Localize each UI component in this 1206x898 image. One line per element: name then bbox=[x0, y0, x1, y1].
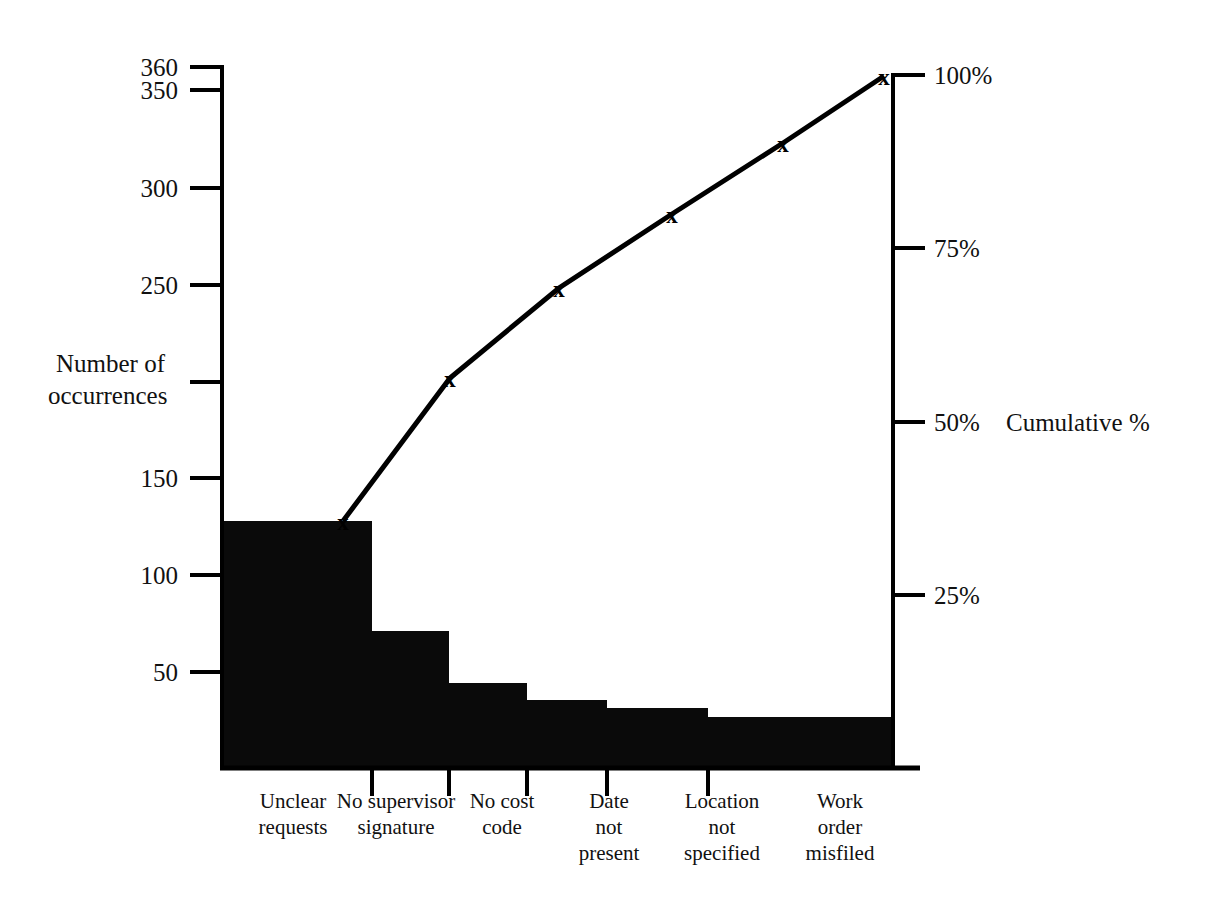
ytick-label-50: 50 bbox=[153, 659, 178, 686]
marker-point-3: x bbox=[553, 277, 565, 302]
cat-label-5-line-1: order bbox=[818, 815, 862, 839]
cat-label-5-line-0: Work bbox=[817, 789, 864, 813]
y2tick-label-75: 75% bbox=[934, 235, 980, 262]
y2tick-label-50: 50% bbox=[934, 409, 980, 436]
ytick-label-350: 350 bbox=[141, 77, 179, 104]
right-axis bbox=[891, 73, 925, 768]
bar-unclear-requests bbox=[222, 521, 372, 768]
marker-point-4: x bbox=[666, 203, 678, 228]
cat-label-3-line-2: present bbox=[579, 841, 640, 865]
marker-point-5: x bbox=[777, 132, 789, 157]
cat-label-5-line-2: misfiled bbox=[806, 841, 875, 865]
pareto-chart: 360 350 300 250 150 100 50 Number of occ… bbox=[0, 0, 1206, 898]
marker-point-2: x bbox=[444, 367, 456, 392]
cumulative-line bbox=[343, 76, 884, 521]
y-axis-title-line2: occurrences bbox=[48, 382, 167, 409]
cat-label-0-line-0: Unclear bbox=[260, 789, 326, 813]
cat-label-2-line-1: code bbox=[482, 815, 522, 839]
cumulative-markers: x x x x x x bbox=[337, 65, 890, 535]
cat-label-3-line-0: Date bbox=[589, 789, 629, 813]
cat-label-1-line-1: signature bbox=[358, 815, 435, 839]
ytick-label-150: 150 bbox=[141, 465, 179, 492]
y2tick-label-25: 25% bbox=[934, 582, 980, 609]
ytick-label-250: 250 bbox=[141, 272, 179, 299]
cat-label-0-line-1: requests bbox=[259, 815, 328, 839]
bar-location-not-specified bbox=[607, 708, 708, 768]
marker-point-1: x bbox=[337, 510, 349, 535]
chart-canvas: 360 350 300 250 150 100 50 Number of occ… bbox=[0, 0, 1206, 898]
cat-label-1-line-0: No supervisor bbox=[337, 789, 455, 813]
cat-label-4-line-0: Location bbox=[685, 789, 760, 813]
cat-label-4-line-2: specified bbox=[684, 841, 760, 865]
ytick-label-300: 300 bbox=[141, 175, 179, 202]
ytick-label-100: 100 bbox=[141, 562, 179, 589]
category-labels: Unclear requests No supervisor signature… bbox=[259, 789, 875, 865]
bar-work-order-misfiled bbox=[708, 717, 893, 768]
cat-label-4-line-1: not bbox=[709, 815, 736, 839]
y2-axis-title: Cumulative % bbox=[1006, 409, 1150, 436]
marker-point-6: x bbox=[878, 65, 890, 90]
bar-date-not-present bbox=[527, 700, 607, 768]
bar-no-supervisor-signature bbox=[372, 631, 449, 768]
bar-series bbox=[222, 521, 893, 768]
cat-label-2-line-0: No cost bbox=[470, 789, 535, 813]
y-axis-title-line1: Number of bbox=[56, 350, 166, 377]
bar-no-cost-code bbox=[449, 683, 527, 768]
left-axis bbox=[190, 67, 224, 770]
y2tick-label-100: 100% bbox=[934, 62, 992, 89]
cat-label-3-line-1: not bbox=[596, 815, 623, 839]
